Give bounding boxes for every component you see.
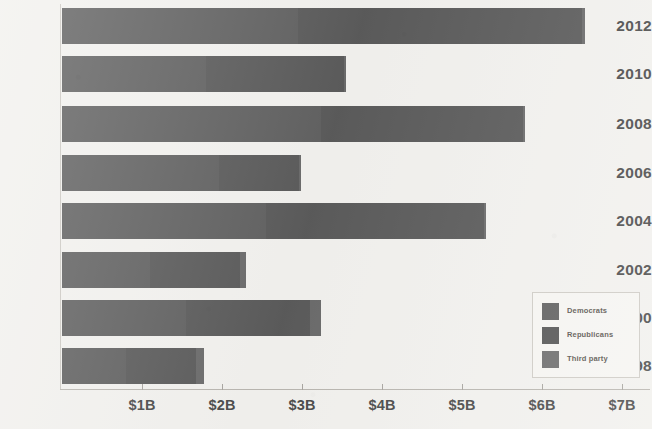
- y-axis-label: 2002: [600, 262, 652, 278]
- x-axis-label: $6B: [512, 398, 572, 413]
- bar-segment-republicans: [298, 8, 582, 44]
- bar-row: [62, 106, 525, 142]
- bar-segment-third-party: [196, 348, 204, 384]
- x-axis-tick: [302, 384, 303, 390]
- bar-segment-republicans: [186, 300, 310, 336]
- bar-segment-republicans: [266, 203, 484, 239]
- bar-row: [62, 348, 204, 384]
- bar-segment-democrats: [62, 56, 206, 92]
- x-axis-line: [60, 389, 650, 390]
- bar-row: [62, 56, 346, 92]
- bar-segment-republicans: [150, 252, 240, 288]
- bar-chart: 20122010200820062004200220001998 $1B$2B$…: [0, 0, 652, 429]
- bar-row: [62, 8, 585, 44]
- x-axis-label: $3B: [272, 398, 332, 413]
- legend-label: Democrats: [567, 307, 607, 315]
- x-axis-label: $5B: [432, 398, 492, 413]
- x-axis-tick: [622, 384, 623, 390]
- bar-segment-democrats: [62, 155, 219, 191]
- x-axis-label: $2B: [192, 398, 252, 413]
- legend-label: Third party: [567, 355, 608, 363]
- bar-segment-republicans: [219, 155, 299, 191]
- bar-segment-republicans: [321, 106, 523, 142]
- bar-segment-third-party: [344, 56, 346, 92]
- bar-segment-third-party: [582, 8, 585, 44]
- x-axis-tick: [462, 384, 463, 390]
- x-axis-tick: [142, 384, 143, 390]
- y-axis-label: 2006: [600, 165, 652, 181]
- bar-segment-democrats: [62, 8, 298, 44]
- bar-row: [62, 155, 301, 191]
- bar-segment-democrats: [62, 300, 186, 336]
- x-axis-label: $7B: [592, 398, 652, 413]
- x-axis-tick: [222, 384, 223, 390]
- x-axis-tick: [382, 384, 383, 390]
- bar-row: [62, 252, 246, 288]
- y-axis-label: 2008: [600, 116, 652, 132]
- bar-segment-democrats: [62, 106, 321, 142]
- bar-row: [62, 203, 486, 239]
- x-axis-label: $1B: [112, 398, 172, 413]
- legend-swatch-icon: [542, 327, 559, 344]
- bar-segment-republicans: [206, 56, 344, 92]
- bar-segment-third-party: [310, 300, 321, 336]
- bar-segment-third-party: [523, 106, 525, 142]
- bar-row: [62, 300, 321, 336]
- bar-segment-third-party: [240, 252, 246, 288]
- legend-swatch-icon: [542, 351, 559, 368]
- y-axis-label: 2004: [600, 213, 652, 229]
- bar-segment-third-party: [299, 155, 301, 191]
- y-axis-label: 2012: [600, 18, 652, 34]
- legend-label: Republicans: [567, 331, 613, 339]
- bar-segment-democrats: [62, 348, 126, 384]
- y-axis-line: [60, 4, 61, 390]
- legend-swatch-icon: [542, 303, 559, 320]
- bar-segment-third-party: [484, 203, 486, 239]
- y-axis-label: 2010: [600, 66, 652, 82]
- x-axis-tick: [542, 384, 543, 390]
- bar-segment-democrats: [62, 203, 266, 239]
- x-axis-label: $4B: [352, 398, 412, 413]
- chart-legend: DemocratsRepublicansThird party: [532, 292, 640, 378]
- bar-segment-republicans: [126, 348, 196, 384]
- bar-segment-democrats: [62, 252, 150, 288]
